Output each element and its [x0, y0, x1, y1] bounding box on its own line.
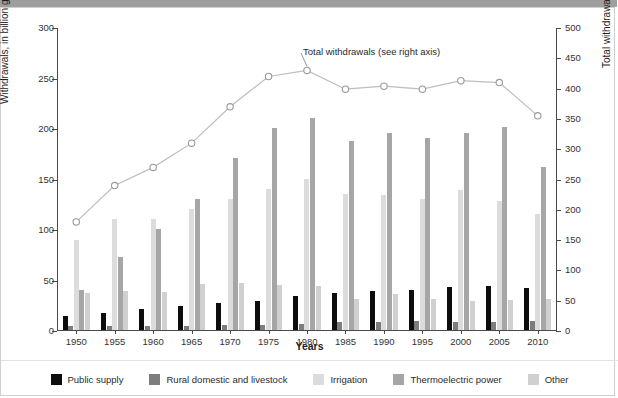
legend-item: Other — [528, 374, 569, 385]
y-tick-label-left: 300 — [14, 23, 54, 32]
y-tick-label-right: 250 — [565, 175, 605, 184]
chart-legend: Public supplyRural domestic and livestoc… — [1, 368, 618, 390]
line-marker — [419, 86, 425, 92]
y-tick-right — [556, 331, 561, 332]
legend-label: Public supply — [68, 374, 124, 385]
legend-swatch — [51, 374, 62, 385]
chart-frame: Withdrawals, in billion gallons per day … — [0, 7, 615, 396]
line-marker — [535, 113, 541, 119]
legend-swatch — [528, 374, 539, 385]
legend-label: Irrigation — [330, 374, 367, 385]
line-marker — [458, 78, 464, 84]
y-tick-label-right: 150 — [565, 235, 605, 244]
legend-swatch — [149, 374, 160, 385]
y-tick-label-left: 100 — [14, 225, 54, 234]
legend-swatch — [393, 374, 404, 385]
line-marker — [381, 83, 387, 89]
x-tick-label: 2010 — [515, 336, 561, 347]
line-marker — [496, 79, 502, 85]
y-tick-label-left: 250 — [14, 74, 54, 83]
legend-swatch — [313, 374, 324, 385]
legend-label: Thermoelectric power — [410, 374, 501, 385]
top-strip — [0, 0, 617, 7]
y-axis-left-title: Withdrawals, in billion gallons per day — [0, 0, 10, 104]
y-tick-label-left: 0 — [14, 326, 54, 335]
y-tick-label-right: 300 — [565, 144, 605, 153]
line-marker — [227, 104, 233, 110]
y-tick-label-left: 50 — [14, 276, 54, 285]
legend-item: Public supply — [51, 374, 124, 385]
y-tick-label-right: 100 — [565, 265, 605, 274]
line-annotation-label: Total withdrawals (see right axis) — [303, 46, 440, 57]
y-tick-label-right: 450 — [565, 53, 605, 62]
y-tick-label-right: 500 — [565, 23, 605, 32]
line-marker — [265, 73, 271, 79]
total-withdrawals-line — [57, 28, 557, 331]
legend-label: Rural domestic and livestock — [166, 374, 287, 385]
line-marker — [342, 86, 348, 92]
y-tick-label-left: 150 — [14, 175, 54, 184]
plot-area: 050100150200250300 050100150200250300350… — [57, 28, 557, 331]
line-annotation: Total withdrawals (see right axis) — [303, 46, 440, 57]
y-tick-label-right: 350 — [565, 114, 605, 123]
y-tick-label-right: 400 — [565, 84, 605, 93]
y-tick-label-left: 200 — [14, 124, 54, 133]
legend-divider — [1, 360, 618, 361]
legend-item: Rural domestic and livestock — [149, 374, 287, 385]
line-marker — [73, 219, 79, 225]
line-marker — [304, 67, 310, 73]
y-tick-label-right: 200 — [565, 205, 605, 214]
legend-item: Irrigation — [313, 374, 367, 385]
legend-label: Other — [545, 374, 569, 385]
line-marker — [150, 164, 156, 170]
total-withdrawals-polyline — [76, 70, 538, 222]
y-tick-label-right: 50 — [565, 296, 605, 305]
y-tick-label-right: 0 — [565, 326, 605, 335]
line-marker — [188, 140, 194, 146]
legend-item: Thermoelectric power — [393, 374, 501, 385]
line-marker — [111, 182, 117, 188]
